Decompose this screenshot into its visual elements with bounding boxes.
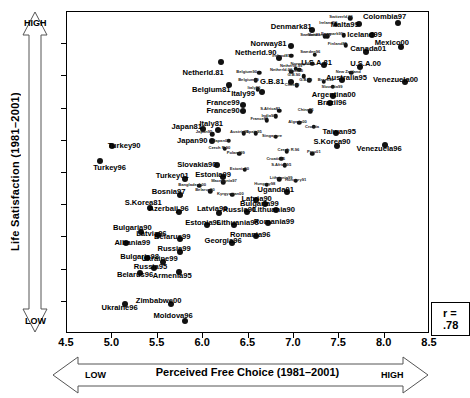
- data-point-label: Croatia: [305, 125, 319, 129]
- data-point-label: Moldova96: [154, 312, 193, 320]
- y-tick-mark: [61, 140, 66, 141]
- data-point-label: Armenia95: [153, 272, 192, 280]
- data-point-label: Norway81: [251, 40, 287, 48]
- data-point: [218, 59, 224, 65]
- data-point-label: Belgium90: [236, 70, 257, 74]
- data-point-label: Slovakia90: [177, 161, 216, 169]
- data-point-label: Bosnia97: [152, 189, 186, 197]
- y-tick-mark: [61, 301, 66, 302]
- data-point-label: Belgium99: [238, 78, 259, 82]
- data-points-layer: Netherld.81Netherld.90Netherld.99Netherl…: [67, 12, 428, 332]
- data-point-label: G.B.99: [299, 78, 312, 82]
- x-tick-mark: [293, 333, 294, 338]
- data-point-label: Lithuania99: [270, 176, 293, 180]
- data-point-label: Finland81: [328, 42, 347, 46]
- data-point-label: Taiwan95: [322, 129, 356, 137]
- data-point: [257, 70, 262, 75]
- x-tick-mark: [248, 333, 249, 338]
- data-point-label: Japan90: [177, 137, 207, 145]
- data-point-label: Brazil96: [317, 100, 346, 108]
- data-point-label: Venezuela00: [373, 76, 418, 84]
- data-point-label: Zimbabwe00: [136, 297, 182, 305]
- y-axis-low-label: LOW: [25, 316, 46, 326]
- data-point-label: Switzerld.96: [329, 14, 353, 18]
- data-point-label: Venezuela96: [357, 145, 402, 153]
- data-point-label: S.Africa81: [260, 107, 280, 111]
- y-axis-title: Life Satisfaction (1981–2001): [2, 11, 28, 333]
- data-point-label: Sweden96: [300, 50, 320, 54]
- data-point-label: Algeria00: [288, 120, 306, 124]
- data-point-label: Macedonia97: [211, 179, 237, 183]
- data-point-label: Norway96: [291, 61, 310, 65]
- data-point-label: Belarus99: [154, 234, 190, 242]
- data-point-label: Chile90: [285, 83, 300, 87]
- data-point-label: China95: [298, 108, 314, 112]
- data-point-label: Russia99: [157, 245, 190, 253]
- data-point: [240, 102, 246, 108]
- data-point-label: Singapore: [262, 134, 282, 138]
- data-point: [215, 127, 221, 133]
- data-point-label: France90: [206, 107, 239, 115]
- data-point-label: S.Korea90: [313, 138, 350, 146]
- data-point: [240, 108, 246, 114]
- y-axis-high-label: HIGH: [24, 18, 47, 28]
- data-point-label: Switzerld.89: [307, 33, 331, 37]
- data-point-label: Belgium81: [192, 86, 230, 94]
- data-point-label: Netherld.90: [235, 49, 276, 57]
- x-axis-title: Perceived Free Choice (1981–2001): [66, 366, 429, 378]
- data-point-label: S.Africa95: [271, 163, 291, 167]
- data-point-label: Croatia95: [266, 157, 285, 161]
- y-tick-mark: [61, 204, 66, 205]
- data-point-label: Lithuania96: [217, 219, 259, 227]
- x-tick-mark: [202, 333, 203, 338]
- x-tick-label: 8.5: [409, 336, 449, 348]
- data-point-label: Canada01: [350, 46, 386, 54]
- data-point-label: Kyrgyzstan00: [217, 192, 244, 196]
- y-tick-mark: [61, 269, 66, 270]
- y-tick-mark: [61, 43, 66, 44]
- y-tick-mark: [61, 75, 66, 76]
- data-point: [310, 61, 315, 66]
- data-point-label: Italy90: [248, 86, 261, 90]
- data-point-label: Netherld.81: [182, 69, 223, 77]
- data-point-label: Estonia90: [230, 167, 249, 171]
- data-point-label: Denmark81: [271, 23, 312, 31]
- plot-area: Netherld.81Netherld.90Netherld.99Netherl…: [66, 11, 429, 333]
- data-point-label: Poland99: [227, 151, 245, 155]
- data-point-label: Brazil90: [318, 78, 334, 82]
- data-point-label: Malta99: [331, 21, 359, 29]
- data-point-label: Czech R.96: [278, 148, 300, 152]
- y-tick-mark: [61, 108, 66, 109]
- data-point-label: Azerbaij.96: [149, 205, 189, 213]
- data-point-label: Spain95: [246, 130, 262, 134]
- x-tick-mark: [111, 333, 112, 338]
- data-point-label: Ukraine96: [101, 304, 137, 312]
- data-point-label: Turkey96: [93, 164, 126, 172]
- y-tick-mark: [61, 172, 66, 173]
- data-point-label: Japan95: [196, 130, 212, 134]
- data-point-label: Albania99: [114, 239, 150, 247]
- data-point-label: Belarus90: [195, 188, 215, 192]
- data-point-label: Chile00: [288, 69, 303, 73]
- data-point-label: Lithuania90: [253, 206, 295, 214]
- data-point-label: Italy99: [231, 91, 255, 99]
- data-point-label: Japan00: [213, 139, 229, 143]
- data-point-label: Uganda01: [258, 186, 294, 194]
- data-point-label: Ireland81: [272, 54, 290, 58]
- data-point-label: Turkey90: [108, 142, 141, 150]
- data-point-label: Slovakia99: [321, 85, 342, 89]
- y-axis-title-text: Life Satisfaction (1981–2001): [9, 92, 21, 251]
- data-point-label: Russia90: [223, 207, 256, 215]
- data-point-label: Romania99: [254, 218, 295, 226]
- x-tick-label: 4.5: [46, 336, 86, 348]
- x-tick-mark: [338, 333, 339, 338]
- data-point-label: India90: [261, 114, 275, 118]
- data-point-label: G.B.81: [260, 78, 284, 86]
- data-point-label: Colombia97: [363, 13, 406, 21]
- y-tick-mark: [61, 236, 66, 237]
- data-point-label: Belarus96: [117, 271, 153, 279]
- x-tick-mark: [157, 333, 158, 338]
- data-point: [288, 43, 294, 49]
- x-tick-mark: [384, 333, 385, 338]
